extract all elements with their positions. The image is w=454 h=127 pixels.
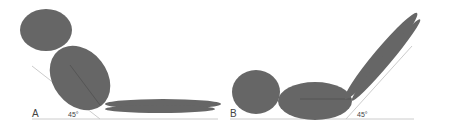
panel-b-angle-label: 45° <box>357 111 368 118</box>
panel-b-label: B <box>230 108 237 119</box>
panel-b: B 45° <box>230 9 424 120</box>
panel-b-leg-upper <box>340 9 423 104</box>
panel-b-head <box>232 70 280 114</box>
panel-b-torso <box>278 82 352 120</box>
panel-a-label: A <box>32 108 39 119</box>
panel-a-angle-label: 45° <box>68 111 79 118</box>
panel-a-leg-lower <box>105 105 215 113</box>
diagram-canvas: A 45° B 45° <box>0 0 454 127</box>
panel-a: A 45° <box>20 9 221 122</box>
panel-b-leg-lower <box>348 16 424 104</box>
panel-a-head <box>20 9 72 51</box>
